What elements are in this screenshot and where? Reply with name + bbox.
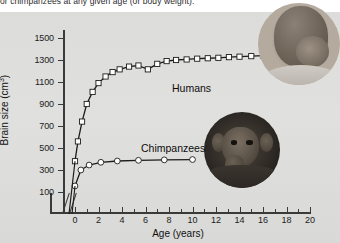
data-point-marker: [110, 70, 115, 75]
data-point-marker: [164, 59, 169, 64]
caption-cut-off-line: or chimpanzees at any given age (or body…: [0, 0, 194, 6]
data-point-marker: [155, 61, 160, 66]
data-point-marker: [114, 158, 120, 164]
data-point-marker: [79, 119, 84, 124]
series-label-humans: Humans: [172, 82, 211, 94]
series-chimpanzees: [72, 157, 195, 189]
data-point-marker: [117, 67, 122, 72]
data-point-marker: [190, 157, 196, 163]
data-point-marker: [90, 89, 95, 94]
chart-panel: 1500 1300 1100 900 700 500 300 100: [0, 12, 340, 243]
data-point-marker: [195, 56, 200, 61]
data-point-marker: [145, 67, 150, 72]
data-point-marker: [161, 157, 167, 163]
data-point-marker: [205, 56, 210, 61]
series-line: [75, 160, 193, 186]
data-point-marker: [136, 63, 141, 68]
data-point-marker: [103, 74, 108, 79]
data-point-marker: [86, 162, 92, 168]
data-point-marker: [136, 157, 142, 163]
data-point-marker: [84, 101, 89, 106]
data-point-marker: [173, 57, 178, 62]
data-point-marker: [78, 167, 84, 173]
data-point-marker: [75, 139, 80, 144]
chimpanzees-origin-riser: [72, 186, 75, 214]
human-baby-photo: [258, 3, 340, 85]
data-point-marker: [126, 64, 131, 69]
chimpanzee-photo: [204, 112, 280, 188]
data-point-marker: [226, 55, 231, 60]
data-point-marker: [98, 159, 104, 165]
series-label-chimpanzees: Chimpanzees: [141, 142, 205, 154]
data-point-marker: [96, 81, 101, 86]
data-point-marker: [237, 54, 242, 59]
figure-screenshot: or chimpanzees at any given age (or body…: [0, 0, 340, 243]
data-point-marker: [184, 57, 189, 62]
data-point-marker: [216, 55, 221, 60]
data-point-marker: [249, 54, 254, 59]
